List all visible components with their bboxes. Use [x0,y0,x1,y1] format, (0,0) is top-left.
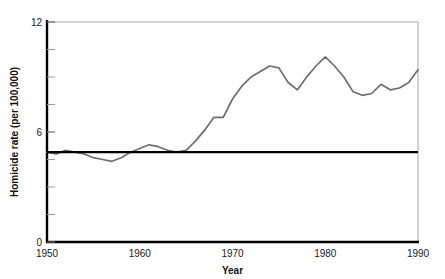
y-tick-label-6: 6 [36,127,42,138]
x-tick-label-1990: 1990 [407,248,430,259]
x-tick-label-1950: 1950 [36,248,59,259]
plot-background [47,22,418,242]
x-tick-label-1960: 1960 [129,248,152,259]
x-tick-label-1980: 1980 [314,248,337,259]
y-axis-title: Homicide rate (per 100,000) [9,67,20,197]
homicide-rate-line-chart: 12 6 0 1950 1960 1970 1980 1990 Year Hom… [0,0,445,279]
x-axis-title: Year [222,265,243,276]
y-tick-label-12: 12 [31,17,43,28]
chart-figure: 12 6 0 1950 1960 1970 1980 1990 Year Hom… [0,0,445,279]
y-tick-label-0: 0 [36,237,42,248]
x-tick-label-1970: 1970 [221,248,244,259]
